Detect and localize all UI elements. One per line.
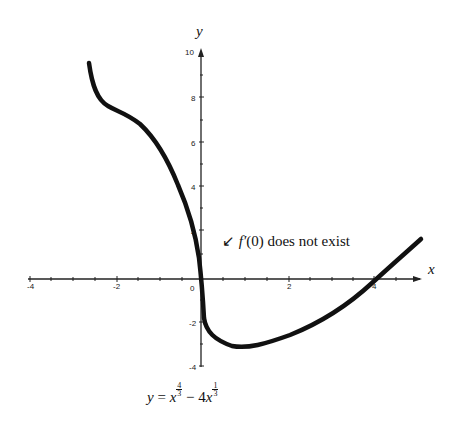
svg-text:10: 10 — [185, 48, 194, 57]
function-caption: y = x43 − 4x13 — [147, 382, 218, 406]
function-plot: -4 -2 0 2 4 -4 -2 2 4 6 8 10 y x — [0, 0, 458, 434]
svg-text:2: 2 — [287, 282, 292, 291]
annotation-derivative: ↙ f′(0) does not exist — [222, 232, 350, 250]
arrow-down-left-icon: ↙ — [222, 233, 235, 249]
svg-text:-2: -2 — [113, 282, 121, 291]
function-curve — [89, 63, 421, 347]
exponent-one-third: 13 — [212, 382, 218, 397]
svg-text:6: 6 — [191, 139, 196, 148]
y-axis-label: y — [194, 23, 203, 39]
x-axis-label: x — [427, 261, 435, 277]
svg-text:-4: -4 — [189, 363, 197, 372]
x-axis-arrow-icon — [413, 276, 422, 282]
x-axis — [28, 276, 422, 282]
svg-text:0: 0 — [190, 284, 195, 293]
y-axis-arrow-icon — [198, 48, 204, 57]
svg-text:-4: -4 — [27, 282, 35, 291]
svg-text:4: 4 — [191, 183, 196, 192]
svg-text:8: 8 — [191, 94, 196, 103]
svg-text:-2: -2 — [189, 319, 197, 328]
